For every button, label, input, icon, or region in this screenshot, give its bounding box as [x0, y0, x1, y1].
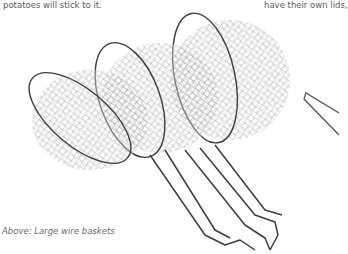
basket-handle-partial	[304, 93, 339, 135]
image-caption: Above: Large wire baskets	[2, 226, 115, 236]
basket-handles	[150, 145, 282, 250]
